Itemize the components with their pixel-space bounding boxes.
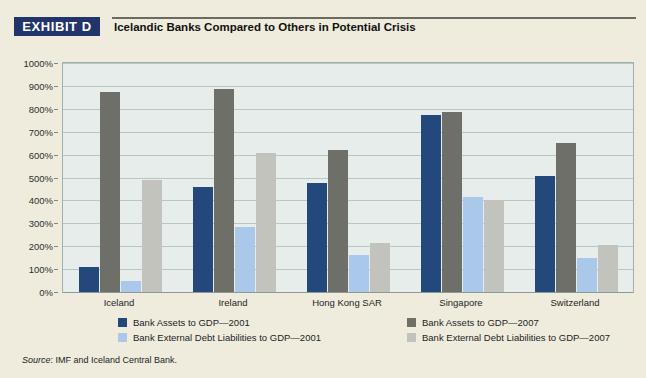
bar-group bbox=[405, 63, 519, 292]
page-title: Icelandic Banks Compared to Others in Po… bbox=[114, 21, 416, 33]
y-axis-tick-mark bbox=[54, 223, 58, 224]
bar bbox=[463, 197, 483, 292]
bar bbox=[484, 200, 504, 292]
y-axis-tick-mark bbox=[54, 63, 58, 64]
bar-group bbox=[63, 63, 177, 292]
x-axis-category-label: Switzerland bbox=[550, 297, 599, 308]
y-axis-tick-label: 100% bbox=[29, 264, 53, 275]
bar bbox=[442, 112, 462, 292]
bar bbox=[598, 245, 618, 292]
y-axis-tick-label: 600% bbox=[29, 149, 53, 160]
legend-label: Bank Assets to GDP—2007 bbox=[422, 317, 539, 328]
y-axis-tick-label: 300% bbox=[29, 218, 53, 229]
bar bbox=[307, 183, 327, 292]
x-axis-category-label: Iceland bbox=[104, 297, 135, 308]
bar bbox=[193, 187, 213, 292]
legend-item: Bank Assets to GDP—2007 bbox=[407, 317, 539, 328]
y-axis-tick-label: 800% bbox=[29, 103, 53, 114]
legend-item: Bank External Debt Liabilities to GDP—20… bbox=[118, 332, 321, 343]
bar bbox=[121, 281, 141, 292]
y-axis-tick-mark bbox=[54, 155, 58, 156]
y-axis-tick-label: 500% bbox=[29, 172, 53, 183]
y-axis-tick-label: 900% bbox=[29, 80, 53, 91]
y-axis-tick-mark bbox=[54, 246, 58, 247]
exhibit-badge: EXHIBIT D bbox=[14, 17, 100, 36]
bar bbox=[577, 258, 597, 292]
y-axis-tick-mark bbox=[54, 178, 58, 179]
bar bbox=[370, 243, 390, 292]
legend-swatch bbox=[407, 318, 416, 327]
y-axis-tick-mark bbox=[54, 292, 58, 293]
bar bbox=[79, 267, 99, 292]
bar bbox=[214, 89, 234, 292]
bar-group bbox=[177, 63, 291, 292]
chart-legend: Bank Assets to GDP—2001Bank Assets to GD… bbox=[118, 317, 618, 347]
y-axis-tick-mark bbox=[54, 200, 58, 201]
exhibit-page: EXHIBIT D Icelandic Banks Compared to Ot… bbox=[0, 0, 646, 378]
x-axis-category-label: Hong Kong SAR bbox=[312, 297, 382, 308]
legend-swatch bbox=[118, 318, 127, 327]
y-axis-tick-mark bbox=[54, 109, 58, 110]
legend-item: Bank Assets to GDP—2001 bbox=[118, 317, 250, 328]
legend-item: Bank External Debt Liabilities to GDP—20… bbox=[407, 332, 610, 343]
source-note: Source: IMF and Iceland Central Bank. bbox=[22, 355, 177, 365]
bar bbox=[142, 180, 162, 292]
y-axis-tick-mark bbox=[54, 269, 58, 270]
y-axis-tick-label: 0% bbox=[39, 287, 53, 298]
plot-area bbox=[63, 63, 633, 292]
y-axis-tick-label: 1000% bbox=[23, 58, 53, 69]
gridline bbox=[63, 292, 633, 293]
y-axis: 0%100%200%300%400%500%600%700%800%900%10… bbox=[0, 62, 58, 293]
bar bbox=[235, 227, 255, 292]
header-divider bbox=[112, 17, 636, 19]
y-axis-tick-mark bbox=[54, 132, 58, 133]
bar bbox=[535, 176, 555, 292]
bar bbox=[349, 255, 369, 292]
bar-group bbox=[291, 63, 405, 292]
exhibit-header: EXHIBIT D Icelandic Banks Compared to Ot… bbox=[14, 17, 636, 39]
legend-label: Bank Assets to GDP—2001 bbox=[133, 317, 250, 328]
bar bbox=[100, 92, 120, 292]
legend-swatch bbox=[118, 333, 127, 342]
bar bbox=[421, 115, 441, 292]
source-label: Source bbox=[22, 355, 51, 365]
legend-swatch bbox=[407, 333, 416, 342]
source-text: : IMF and Iceland Central Bank. bbox=[51, 355, 178, 365]
bar bbox=[328, 150, 348, 292]
x-axis-category-label: Singapore bbox=[439, 297, 482, 308]
bar bbox=[256, 153, 276, 292]
y-axis-tick-label: 700% bbox=[29, 126, 53, 137]
bar-chart bbox=[62, 62, 634, 293]
y-axis-tick-mark bbox=[54, 86, 58, 87]
legend-label: Bank External Debt Liabilities to GDP—20… bbox=[422, 332, 610, 343]
x-axis-category-label: Ireland bbox=[218, 297, 247, 308]
y-axis-tick-label: 400% bbox=[29, 195, 53, 206]
y-axis-tick-label: 200% bbox=[29, 241, 53, 252]
bar-group bbox=[519, 63, 633, 292]
legend-label: Bank External Debt Liabilities to GDP—20… bbox=[133, 332, 321, 343]
bar bbox=[556, 143, 576, 292]
